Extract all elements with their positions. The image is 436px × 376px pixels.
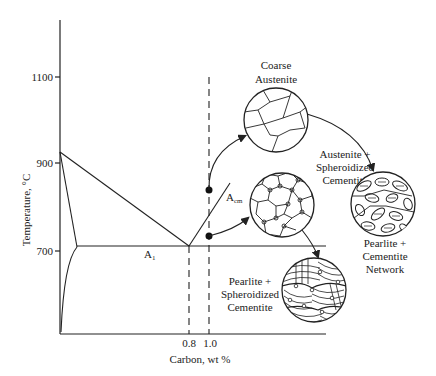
label-austenite-spheroidized-2: Spheroidized <box>316 161 375 173</box>
label-coarse-austenite-1: Coarse <box>261 59 292 71</box>
label-pearlite-network-2: Cementite <box>362 250 407 262</box>
acm-label: Acm <box>226 191 243 205</box>
label-pearlite-spheroidized-3: Cementite <box>227 301 272 313</box>
label-pearlite-spheroidized-1: Pearlite + <box>229 275 272 287</box>
y-tick-label-700: 700 <box>37 245 54 257</box>
label-pearlite-spheroidized-2: Spheroidized <box>221 288 280 300</box>
arrow-to-austenite-spheroidized <box>209 218 248 236</box>
phase-diagram: 1100 900 700 Temperature, °C 0.8 1.0 Car… <box>0 0 436 376</box>
alpha-solvus <box>61 247 77 332</box>
micrograph-austenite-spheroidized <box>250 172 316 237</box>
y-tick-label-1100: 1100 <box>31 71 53 83</box>
a1-label: A1 <box>144 248 156 262</box>
micrograph-pearlite-network <box>351 172 415 236</box>
micrograph-pearlite-spheroidized <box>282 258 346 323</box>
x-tick-label-1.0: 1.0 <box>203 337 217 349</box>
arrow-to-pearlite-spheroidized <box>302 230 318 257</box>
label-coarse-austenite-2: Austenite <box>255 73 297 85</box>
a3-line <box>60 152 189 246</box>
x-axis-label: Carbon, wt % <box>170 353 231 365</box>
alpha-gamma-boundary <box>60 152 77 247</box>
x-tick-label-0.8: 0.8 <box>182 337 196 349</box>
label-pearlite-network-1: Pearlite + <box>364 237 407 249</box>
micrograph-coarse-austenite <box>244 88 308 152</box>
arrow-to-coarse-austenite <box>209 136 245 190</box>
label-pearlite-network-3: Network <box>366 263 405 275</box>
y-tick-label-900: 900 <box>37 157 54 169</box>
label-austenite-spheroidized-1: Austenite + <box>319 148 370 160</box>
y-axis-label: Temperature, °C <box>20 174 32 247</box>
